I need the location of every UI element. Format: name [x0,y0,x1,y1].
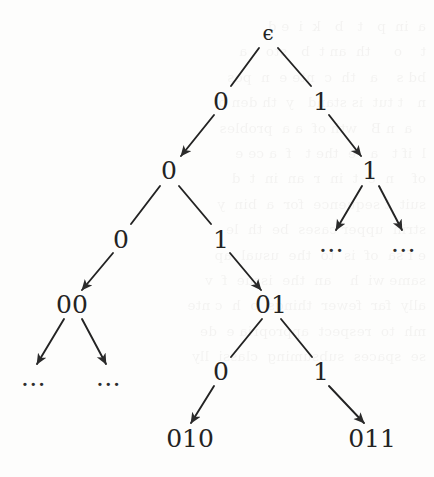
tree-node-root: ϵ [262,23,273,43]
tree-edge-n0-to-n00 [181,115,214,156]
tree-edge-n1-to-n11 [329,115,361,156]
tree-edge-n11-to-d11a [336,186,362,230]
tree-edge-n010-to-l010 [191,386,214,423]
tree-node-n00s: 00 [56,292,88,317]
tree-node-l011: 011 [348,426,396,451]
tree-node-ellipsis-d11a: … [319,231,346,256]
tree-node-n1: 1 [313,89,329,114]
tree-node-l010: 010 [166,426,214,451]
tree-edge-n00-to-n001 [179,186,211,224]
tree-node-n011: 1 [313,359,329,384]
tree-edge-n00s-to-d00a [37,319,64,364]
tree-edge-n000-to-n00s [82,253,113,290]
tree-node-n0: 0 [213,89,229,114]
tree-edge-n00-to-n000 [131,186,160,224]
tree-edge-n01s-to-n010 [231,319,262,357]
binary-tree-figure: a in p t b k i e d t o th an t b sto a b… [0,0,434,477]
tree-node-ellipsis-d00b: … [96,365,123,390]
tree-node-n010: 0 [213,359,229,384]
tree-node-n01s: 01 [255,292,287,317]
tree-edge-n01s-to-n011 [281,319,312,357]
tree-edge-n011-to-l011 [329,386,364,423]
tree-edge-n001-to-n01s [230,253,261,290]
tree-node-n000: 0 [113,227,129,252]
tree-node-n11: 1 [362,158,378,183]
tree-edge-root-to-n1 [278,48,311,86]
tree-node-ellipsis-d00a: … [21,365,48,390]
tree-node-n00: 0 [161,158,177,183]
tree-edge-root-to-n0 [231,48,259,86]
tree-node-ellipsis-d11b: … [391,231,418,256]
tree-edge-n00s-to-d00b [82,319,106,364]
tree-edge-n11-to-d11b [379,186,402,230]
tree-node-n001: 1 [213,227,229,252]
